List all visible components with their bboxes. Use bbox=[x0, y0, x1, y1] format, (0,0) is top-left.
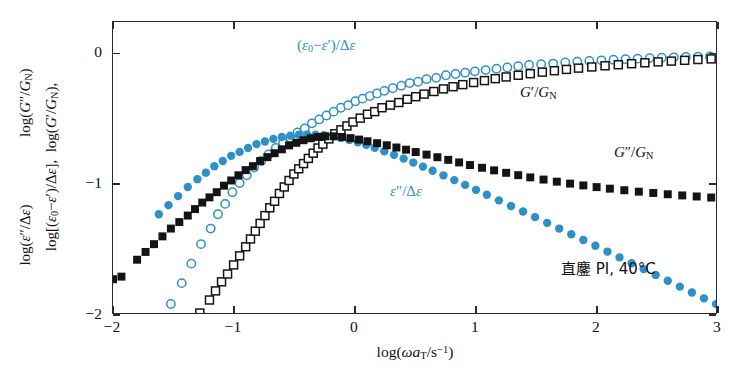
data-point bbox=[461, 68, 469, 76]
annotation-epsilon-imag: ε″/Δε bbox=[390, 183, 422, 200]
data-point bbox=[433, 153, 441, 161]
data-point bbox=[263, 153, 271, 161]
data-point bbox=[167, 300, 175, 308]
data-point bbox=[491, 75, 499, 83]
data-point bbox=[693, 192, 701, 200]
data-point bbox=[459, 81, 467, 89]
annotation-g-prime: G′/GN bbox=[520, 84, 557, 101]
y-tick-0 bbox=[113, 53, 120, 55]
data-point bbox=[480, 77, 488, 85]
data-point bbox=[430, 88, 438, 96]
x-tick--2 bbox=[112, 306, 114, 313]
annotation-sample-label: 直鏖 PI, 40°C bbox=[561, 257, 656, 278]
data-point bbox=[678, 191, 686, 199]
data-point bbox=[206, 224, 214, 232]
data-point bbox=[540, 176, 548, 184]
y-tick-label--1: −1 bbox=[86, 174, 103, 192]
data-point bbox=[228, 188, 236, 196]
data-point bbox=[641, 59, 649, 67]
data-point bbox=[236, 252, 244, 260]
data-point bbox=[380, 87, 388, 95]
data-point bbox=[562, 65, 570, 73]
figure-root: log[(ε0−ε′)/Δε], log(G′/GN), log(ε″/Δε) … bbox=[0, 0, 752, 382]
x-tick-1 bbox=[475, 22, 477, 29]
data-point bbox=[212, 287, 220, 295]
y-tick--2 bbox=[709, 314, 716, 316]
y-tick-label-0: 0 bbox=[94, 43, 102, 61]
data-point bbox=[235, 148, 243, 156]
data-point bbox=[614, 61, 622, 69]
data-point bbox=[155, 210, 163, 218]
data-point bbox=[196, 309, 204, 313]
data-point bbox=[472, 186, 480, 194]
data-point bbox=[688, 288, 696, 296]
data-point bbox=[514, 171, 522, 179]
data-point bbox=[538, 68, 546, 76]
data-point bbox=[271, 197, 279, 205]
data-point bbox=[439, 85, 447, 93]
data-point bbox=[269, 135, 277, 143]
data-point bbox=[423, 151, 431, 159]
data-point bbox=[649, 189, 657, 197]
data-point bbox=[502, 169, 510, 177]
data-point bbox=[526, 70, 534, 78]
data-point bbox=[321, 132, 329, 140]
data-point bbox=[449, 83, 457, 91]
data-point bbox=[412, 93, 420, 101]
y-tick--1 bbox=[113, 183, 120, 185]
data-point bbox=[483, 191, 491, 199]
data-point bbox=[579, 181, 587, 189]
annotation-g-double-prime: G″/GN bbox=[614, 144, 653, 161]
data-point bbox=[664, 277, 672, 285]
data-point bbox=[249, 162, 257, 170]
data-point bbox=[419, 162, 427, 170]
data-point bbox=[347, 134, 355, 142]
x-tick-0 bbox=[354, 22, 356, 29]
y-tick-label--2: −2 bbox=[86, 305, 103, 323]
data-point bbox=[184, 183, 192, 191]
data-point bbox=[461, 181, 469, 189]
data-point bbox=[439, 171, 447, 179]
data-point bbox=[525, 61, 533, 69]
data-point bbox=[514, 62, 522, 70]
data-point bbox=[550, 67, 558, 75]
data-point bbox=[187, 259, 195, 267]
data-point bbox=[567, 230, 575, 238]
data-point bbox=[285, 141, 293, 149]
data-point bbox=[466, 161, 474, 169]
data-point bbox=[409, 158, 417, 166]
data-point bbox=[205, 296, 213, 304]
data-point bbox=[221, 200, 229, 208]
data-point bbox=[455, 158, 463, 166]
data-point bbox=[113, 275, 117, 283]
data-point bbox=[471, 67, 479, 75]
x-tick--2 bbox=[112, 22, 114, 29]
data-point bbox=[694, 56, 702, 64]
data-point bbox=[451, 70, 459, 78]
data-point bbox=[707, 194, 715, 202]
x-tick-2 bbox=[596, 306, 598, 313]
data-point bbox=[193, 175, 201, 183]
data-point bbox=[593, 183, 601, 191]
data-point bbox=[399, 154, 407, 162]
data-point bbox=[252, 140, 260, 148]
y-tick-0 bbox=[709, 53, 716, 55]
data-point bbox=[405, 79, 413, 87]
x-tick-label-2: 2 bbox=[592, 318, 600, 336]
data-point bbox=[227, 177, 235, 185]
data-point bbox=[681, 56, 689, 64]
data-point bbox=[355, 136, 363, 144]
data-point bbox=[338, 133, 346, 141]
data-point bbox=[244, 144, 252, 152]
data-point bbox=[588, 63, 596, 71]
data-point bbox=[606, 185, 614, 193]
data-point bbox=[654, 58, 662, 66]
data-point bbox=[635, 188, 643, 196]
data-point bbox=[591, 242, 599, 250]
data-point bbox=[490, 166, 498, 174]
data-point bbox=[390, 151, 398, 159]
data-point bbox=[178, 279, 186, 287]
data-point bbox=[412, 148, 420, 156]
data-point bbox=[628, 60, 636, 68]
data-point bbox=[261, 137, 269, 145]
